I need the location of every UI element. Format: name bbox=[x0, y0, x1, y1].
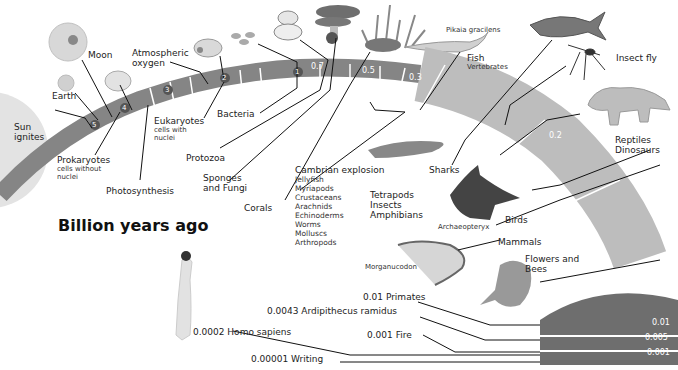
label-earth: Earth bbox=[52, 91, 76, 101]
human-figure-icon bbox=[176, 258, 192, 340]
band-marker-0.2: 0.2 bbox=[549, 131, 562, 141]
label-bacteria: Bacteria bbox=[217, 109, 254, 119]
band-marker-0.3: 0.3 bbox=[409, 73, 422, 83]
label-fire: 0.001 Fire bbox=[367, 330, 412, 340]
pikaia-icon bbox=[405, 32, 488, 52]
moon-icon bbox=[49, 23, 87, 61]
label-eukaryotes: Eukaryotescells withnuclei bbox=[154, 116, 204, 142]
label-writing: 0.00001 Writing bbox=[251, 354, 323, 364]
label-ardipithecus: 0.0043 Ardipithecus ramidus bbox=[267, 306, 397, 316]
insect-fly-icon bbox=[568, 45, 605, 80]
dinosaur-icon bbox=[588, 88, 670, 126]
label-sponges-fungi: Spongesand Fungi bbox=[203, 173, 247, 193]
label-protozoa: Protozoa bbox=[186, 153, 225, 163]
band-marker-4: 4 bbox=[122, 103, 126, 113]
label-moon: Moon bbox=[88, 50, 112, 60]
tetrapod-icon bbox=[368, 141, 444, 158]
shark-icon bbox=[530, 12, 606, 40]
band-marker-3: 3 bbox=[165, 85, 169, 95]
bacteria-icon bbox=[231, 32, 255, 45]
label-reptiles-dinosaurs: ReptilesDinosaurs bbox=[615, 135, 660, 155]
mushroom-icon bbox=[315, 5, 360, 44]
band-marker-0.01: 0.01 bbox=[652, 318, 670, 328]
archaeopteryx-icon bbox=[450, 165, 520, 220]
label-photosynthesis: Photosynthesis bbox=[106, 186, 174, 196]
label-flowers-bees: Flowers andBees bbox=[525, 254, 579, 274]
label-homo-sapiens: 0.0002 Homo sapiens bbox=[193, 327, 291, 337]
band-marker-2: 2 bbox=[222, 73, 226, 83]
label-fish-vertebrates: FishVertebrates bbox=[467, 53, 508, 71]
prokaryote-cell-icon bbox=[105, 71, 131, 91]
label-corals: Corals bbox=[244, 203, 272, 213]
band-marker-0.5: 0.5 bbox=[362, 66, 375, 76]
label-pikaia-gracilens: Pikaia gracilens bbox=[446, 26, 500, 34]
label-sun-ignites: Sunignites bbox=[14, 122, 44, 142]
label-primates: 0.01 Primates bbox=[363, 292, 425, 302]
protozoa-icon bbox=[278, 11, 298, 25]
label-tetrapods: TetrapodsInsectsAmphibians bbox=[370, 190, 423, 220]
flower-bee-icon bbox=[480, 261, 531, 307]
label-mammals: Mammals bbox=[498, 237, 542, 247]
label-prokaryotes: Prokaryotescells withoutnuclei bbox=[57, 155, 110, 181]
label-insect-fly: Insect fly bbox=[616, 53, 657, 63]
label-morganucodon: Morganucodon bbox=[365, 263, 417, 271]
label-atmospheric-oxygen: Atmosphericoxygen bbox=[132, 48, 189, 68]
diagram-title: Billion years ago bbox=[58, 216, 208, 235]
band-marker-5: 5 bbox=[92, 120, 96, 130]
label-birds: Birds bbox=[505, 215, 528, 225]
earth-icon bbox=[58, 75, 74, 91]
band-marker-1: 1 bbox=[295, 67, 299, 77]
band-marker-0.005: 0.005 bbox=[645, 333, 668, 343]
label-sharks: Sharks bbox=[429, 165, 460, 175]
band-marker-0.001: 0.001 bbox=[647, 348, 670, 358]
band-marker-0.1: 0.1 bbox=[654, 269, 667, 279]
band-marker-0.7: 0.7 bbox=[311, 62, 324, 72]
recent-era-arc bbox=[540, 293, 678, 320]
label-archaeopteryx: Archaeopteryx bbox=[438, 223, 489, 231]
